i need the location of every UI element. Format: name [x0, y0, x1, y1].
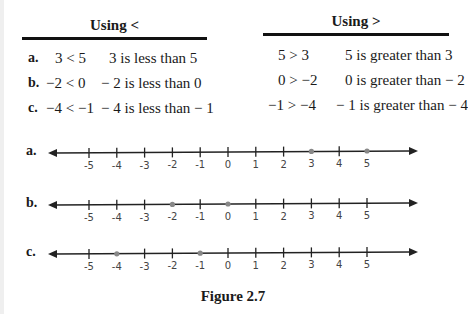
tick-label: -3	[140, 212, 150, 223]
tick-label: 3	[308, 158, 314, 169]
tick-label: 2	[280, 159, 286, 170]
tick-label: -3	[140, 261, 150, 272]
tick-label: 5	[364, 158, 370, 169]
tick-label: 3	[308, 259, 314, 270]
figure-caption: Figure 2.7	[0, 288, 466, 305]
arrow-right-icon	[409, 147, 418, 155]
tick-label: 5	[364, 210, 370, 221]
tick-label: 5	[364, 259, 370, 270]
arrow-right-icon	[409, 248, 418, 256]
highlighted-point	[225, 201, 230, 206]
arrow-left-icon	[48, 201, 57, 209]
tick-label: 1	[253, 260, 259, 271]
highlighted-point	[170, 202, 175, 207]
tick-label: -2	[167, 211, 177, 222]
tick-label: 4	[336, 210, 342, 221]
tick-label: -2	[167, 159, 177, 170]
tick-label: 1	[253, 159, 259, 170]
number-line: -5-4-3-2-1012345	[48, 247, 418, 272]
highlighted-point	[198, 251, 203, 256]
tick-label: 4	[336, 158, 342, 169]
highlighted-point	[364, 148, 369, 153]
tick-label: 1	[253, 211, 259, 222]
number-line: -5-4-3-2-1012345	[48, 146, 418, 171]
tick-label: 0	[225, 260, 231, 271]
tick-label: 2	[280, 260, 286, 271]
arrow-right-icon	[409, 199, 418, 207]
tick-label: 0	[225, 159, 231, 170]
tick-label: 2	[280, 211, 286, 222]
tick-label: -5	[84, 160, 94, 171]
tick-label: -3	[140, 160, 150, 171]
tick-label: -1	[195, 211, 205, 222]
tick-label: -5	[84, 261, 94, 272]
tick-label: -4	[112, 261, 122, 272]
tick-label: -4	[112, 160, 122, 171]
highlighted-point	[114, 251, 119, 256]
tick-label: -1	[195, 260, 205, 271]
tick-label: -2	[167, 260, 177, 271]
tick-label: -5	[84, 212, 94, 223]
highlighted-point	[309, 149, 314, 154]
number-line: -5-4-3-2-1012345	[48, 198, 418, 223]
tick-label: -1	[195, 159, 205, 170]
arrow-left-icon	[48, 149, 57, 157]
tick-label: 0	[225, 211, 231, 222]
tick-label: 3	[308, 210, 314, 221]
tick-label: -4	[112, 212, 122, 223]
arrow-left-icon	[48, 250, 57, 258]
tick-label: 4	[336, 259, 342, 270]
